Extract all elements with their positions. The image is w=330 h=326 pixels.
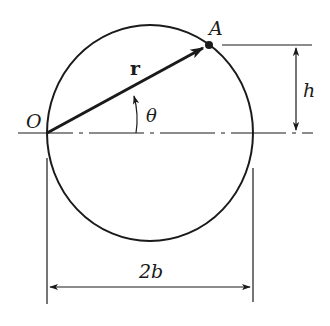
vector-r [47,48,203,133]
label-angle-theta: θ [146,105,157,126]
angle-arc [134,96,137,133]
label-height-h: h [303,79,315,101]
label-origin-o: O [26,110,42,132]
label-width-2b: 2b [138,260,163,282]
circle-diagram: A O r θ h 2b [0,0,330,326]
point-a [205,41,213,49]
label-point-a: A [207,17,223,39]
label-vector-r: r [130,57,141,79]
